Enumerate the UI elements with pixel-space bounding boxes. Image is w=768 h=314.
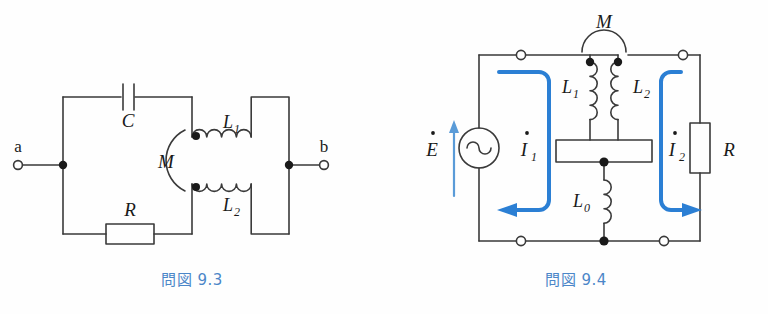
current-i1-dot-accent (525, 131, 529, 135)
junction-node-a (59, 161, 67, 169)
terminal-a-label: a (14, 137, 22, 156)
figure-9-3-caption: 問図 9.3 (0, 268, 384, 289)
inductor-l0-label-base: L (572, 191, 583, 211)
inductor-l1-label-sub: 1 (234, 122, 240, 136)
inductor-l2-label-sub: 2 (644, 87, 650, 101)
figure-9-4-caption-text: 問図 9.4 (545, 271, 607, 289)
capacitor-label: C (122, 110, 135, 131)
polarity-dot-l2 (192, 183, 200, 191)
polarity-dot-l1 (192, 132, 200, 140)
wire-coil-l1-to-right-rail (251, 97, 289, 234)
inductor-l1-label: L 1 (222, 112, 240, 136)
terminal-a-circle[interactable] (14, 161, 23, 170)
coil-l0-windings (604, 180, 611, 223)
figure-9-3-panel: a b C R L 1 L 2 M 問図 9.3 (0, 0, 384, 314)
source-emf-dot-accent (431, 131, 435, 135)
wire-coil-l2-to-right-rail (251, 184, 289, 234)
inductor-l2-label-sub: 2 (234, 205, 240, 219)
resistor-body (690, 123, 710, 173)
current-i2-label-sub: 2 (679, 150, 685, 164)
current-i2-arrow (661, 72, 702, 217)
polarity-dot-l2 (614, 58, 622, 66)
mutual-inductance-label: M (157, 151, 175, 172)
inductor-l1-label-sub: 1 (573, 87, 579, 101)
source-emf-label: E (425, 131, 438, 160)
inductor-l0-label-sub: 0 (584, 201, 590, 215)
terminal-bottom-left-circle[interactable] (516, 236, 525, 245)
inductor-l0-label: L 0 (572, 191, 590, 215)
mutual-inductance-label: M (595, 11, 613, 32)
figure-9-3-diagram: a b C R L 1 L 2 M (0, 0, 384, 268)
junction-node-b (285, 161, 293, 169)
mutual-coupling-arc (582, 30, 626, 52)
resistor-label: R (722, 139, 735, 160)
resistor-body (106, 224, 154, 244)
polarity-dot-l1 (586, 58, 594, 66)
figure-9-3-caption-text: 問図 9.3 (161, 271, 223, 289)
coil-l2-windings (192, 184, 251, 191)
ac-source-sine-glyph (467, 142, 491, 154)
coil-l2-windings (611, 62, 618, 120)
inductor-l2-label-base: L (222, 195, 233, 215)
figure-9-4-panel: E I 1 I 2 M L 1 (384, 0, 768, 314)
junction-node-center (599, 157, 608, 166)
current-i1-label-base: I (520, 139, 529, 160)
figure-9-4-caption: 問図 9.4 (384, 268, 768, 289)
terminal-top-right-circle[interactable] (678, 50, 687, 59)
current-i1-label: I 1 (520, 131, 537, 164)
source-emf-label-base: E (425, 139, 438, 160)
coil-l1-windings (192, 130, 251, 137)
current-i2-label: I 2 (668, 131, 685, 164)
resistor-label: R (123, 199, 136, 220)
figure-sheet: a b C R L 1 L 2 M 問図 9.3 (0, 0, 768, 314)
current-i2-label-base: I (668, 139, 677, 160)
inductor-l2-label: L 2 (632, 77, 650, 101)
coil-l1-windings (590, 62, 597, 120)
inductor-l2-label-base: L (632, 77, 643, 97)
inductor-l1-label: L 1 (561, 77, 579, 101)
figure-9-4-diagram: E I 1 I 2 M L 1 (384, 0, 768, 268)
current-i1-label-sub: 1 (531, 150, 537, 164)
terminal-bottom-right-circle[interactable] (659, 236, 668, 245)
junction-node-bottom (599, 236, 608, 245)
inductor-l1-label-base: L (222, 112, 233, 132)
inductor-l1-label-base: L (561, 77, 572, 97)
terminal-top-left-circle[interactable] (516, 50, 525, 59)
terminal-b-circle[interactable] (320, 161, 329, 170)
emf-arrow (449, 120, 459, 196)
inductor-l2-label: L 2 (222, 195, 240, 219)
terminal-b-label: b (320, 137, 329, 156)
current-i2-dot-accent (673, 131, 677, 135)
